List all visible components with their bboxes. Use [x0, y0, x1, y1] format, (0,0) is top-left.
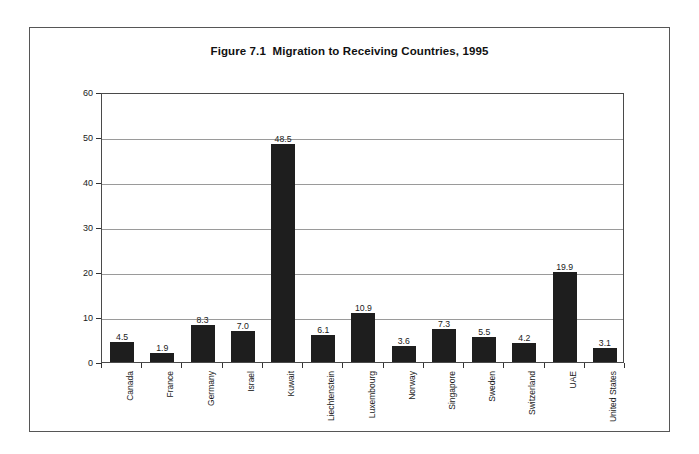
bar — [311, 335, 335, 362]
bar — [351, 313, 375, 362]
bar-value-label: 3.6 — [398, 336, 410, 346]
bar-value-label: 7.0 — [237, 321, 249, 331]
x-axis-tick-label: Switzerland — [527, 371, 537, 415]
x-axis-tick-label: Luxembourg — [367, 371, 377, 418]
bar — [432, 329, 456, 362]
bar — [110, 342, 134, 362]
x-axis-tick-mark — [624, 363, 625, 368]
y-axis-tick-label: 40 — [67, 178, 93, 188]
x-axis-tick-mark — [463, 363, 464, 368]
bar — [512, 343, 536, 362]
bar-slot: 4.2 — [504, 94, 544, 362]
bar-value-label: 1.9 — [156, 343, 168, 353]
bar — [392, 346, 416, 362]
bar-slot: 7.0 — [223, 94, 263, 362]
y-axis-tick-label: 60 — [67, 88, 93, 98]
y-axis-tick-label: 10 — [67, 313, 93, 323]
bar — [150, 353, 174, 362]
x-axis-tick-mark — [342, 363, 343, 368]
x-axis-tick-label: Liechtenstein — [326, 371, 336, 421]
bar-value-label: 7.3 — [438, 319, 450, 329]
bar-slot: 3.1 — [585, 94, 625, 362]
x-axis-tick-label: Singapore — [447, 371, 457, 410]
x-axis-tick-mark — [423, 363, 424, 368]
y-axis-tick-label: 30 — [67, 223, 93, 233]
bar-value-label: 3.1 — [599, 338, 611, 348]
figure-frame: Figure 7.1 Migration to Receiving Countr… — [29, 27, 670, 432]
bar-slot: 8.3 — [182, 94, 222, 362]
x-axis-tick-mark — [544, 363, 545, 368]
x-axis-tick-mark — [141, 363, 142, 368]
bar-value-label: 4.5 — [116, 332, 128, 342]
bar-slot: 10.9 — [343, 94, 383, 362]
bar-value-label: 8.3 — [197, 315, 209, 325]
x-axis-tick-mark — [584, 363, 585, 368]
bar-slot: 4.5 — [102, 94, 142, 362]
x-axis-tick-label: UAE — [568, 371, 578, 388]
x-axis-tick-mark — [181, 363, 182, 368]
x-axis: CanadaFranceGermanyIsraelKuwaitLiechtens… — [101, 363, 624, 433]
x-axis-tick-mark — [101, 363, 102, 368]
bar-value-label: 10.9 — [355, 303, 372, 313]
x-axis-tick-label: Norway — [407, 371, 417, 400]
bar-value-label: 19.9 — [556, 262, 573, 272]
x-axis-tick-label: Sweden — [487, 371, 497, 402]
bar-slot: 7.3 — [424, 94, 464, 362]
y-axis-tick-label: 50 — [67, 133, 93, 143]
x-axis-tick-label: Germany — [206, 371, 216, 406]
page-title: Figure 7.1 Migration to Receiving Countr… — [30, 45, 669, 57]
bar-slot: 5.5 — [464, 94, 504, 362]
x-axis-tick-label: Israel — [246, 371, 256, 392]
bar — [231, 331, 255, 363]
bar — [472, 337, 496, 362]
x-axis-tick-label: Kuwait — [286, 371, 296, 397]
bar-slot: 6.1 — [303, 94, 343, 362]
bar-value-label: 6.1 — [317, 325, 329, 335]
bar — [553, 272, 577, 362]
y-axis-tick-label: 0 — [67, 358, 93, 368]
bar — [593, 348, 617, 362]
x-axis-tick-mark — [503, 363, 504, 368]
bar-slot: 19.9 — [545, 94, 585, 362]
x-axis-tick-mark — [383, 363, 384, 368]
bar-slot: 48.5 — [263, 94, 303, 362]
x-axis-tick-mark — [222, 363, 223, 368]
y-axis-tick-label: 20 — [67, 268, 93, 278]
x-axis-tick-mark — [302, 363, 303, 368]
bar-slot: 3.6 — [384, 94, 424, 362]
bar-value-label: 5.5 — [478, 327, 490, 337]
bar-value-label: 4.2 — [518, 333, 530, 343]
bar-value-label: 48.5 — [275, 134, 292, 144]
x-axis-tick-label: France — [165, 371, 175, 397]
x-axis-tick-label: Canada — [125, 371, 135, 401]
x-axis-tick-mark — [262, 363, 263, 368]
x-axis-tick-label: United States — [608, 371, 618, 422]
bar — [191, 325, 215, 362]
bar-slot: 1.9 — [142, 94, 182, 362]
bar — [271, 144, 295, 362]
plot-area: 4.51.98.37.048.56.110.93.67.35.54.219.93… — [101, 93, 624, 363]
